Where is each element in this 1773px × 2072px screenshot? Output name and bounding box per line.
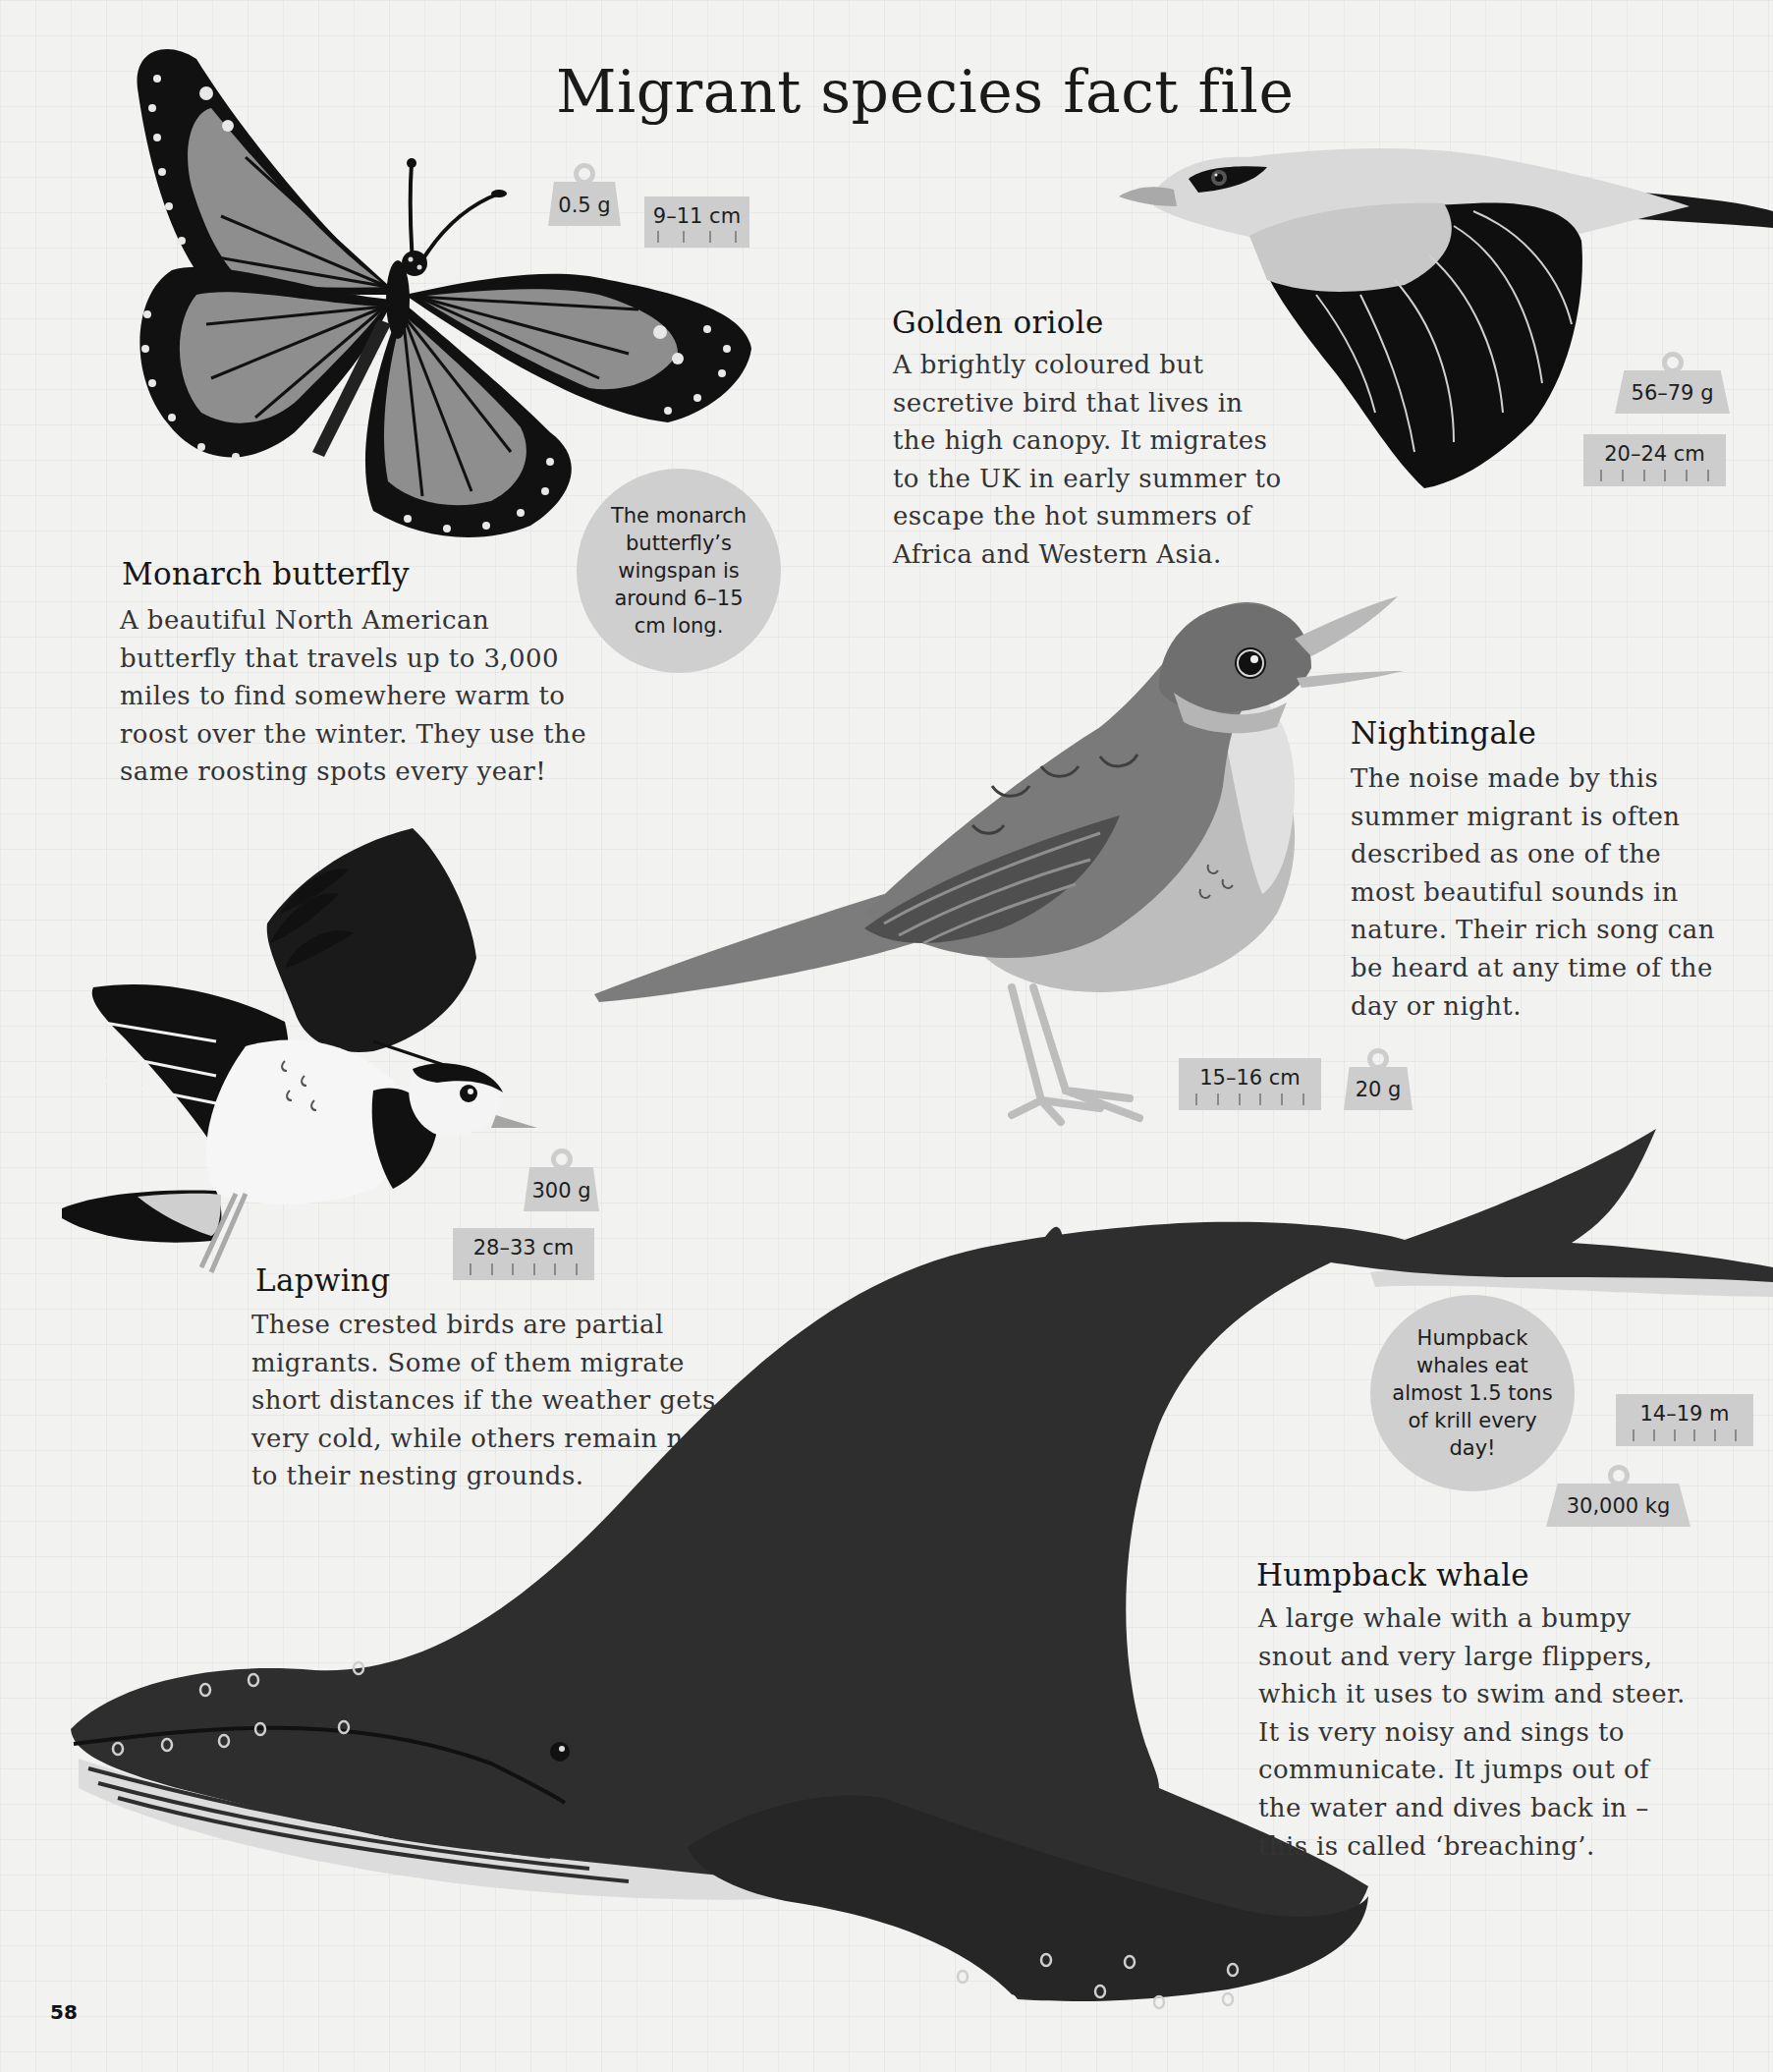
fact-line: Humpback (1392, 1324, 1552, 1352)
humpback-weight-badge: 30,000 kg (1546, 1484, 1690, 1527)
description-line: It is very noisy and sings to (1258, 1713, 1686, 1752)
humpback-heading: Humpback whale (1256, 1557, 1529, 1593)
description-line: the water and dives back in – (1258, 1789, 1686, 1827)
description-line: which it uses to swim and steer. (1258, 1675, 1686, 1713)
fact-line: day! (1392, 1434, 1552, 1462)
fact-line: whales eat (1392, 1352, 1552, 1379)
fact-line: almost 1.5 tons (1392, 1379, 1552, 1407)
description-line: snout and very large flippers, (1258, 1638, 1686, 1676)
humpback-fact-bubble: Humpback whales eat almost 1.5 tons of k… (1370, 1295, 1575, 1491)
humpback-description: A large whale with a bumpy snout and ver… (1258, 1599, 1686, 1865)
description-line: this is called ‘breaching’. (1258, 1827, 1686, 1866)
humpback-weight-value: 30,000 kg (1567, 1494, 1671, 1518)
humpback-length-badge: 14–19 m (1616, 1394, 1753, 1446)
description-line: A large whale with a bumpy (1258, 1599, 1686, 1638)
weight-ring-icon (1608, 1465, 1630, 1486)
page-number: 58 (50, 2000, 78, 2024)
humpback-length-value: 14–19 m (1616, 1402, 1753, 1426)
ruler-ticks-icon (1633, 1429, 1737, 1441)
fact-line: of krill every (1392, 1407, 1552, 1434)
description-line: communicate. It jumps out of (1258, 1751, 1686, 1789)
